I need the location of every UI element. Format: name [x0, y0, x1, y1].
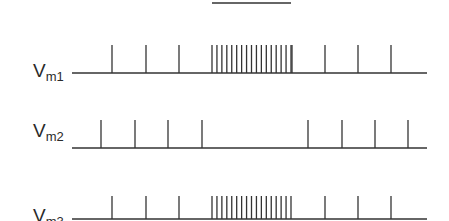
trace-label-subscript: m1 [46, 69, 64, 84]
trace-label-subscript: m2 [46, 129, 64, 144]
trace-label-main: V [33, 60, 46, 81]
trace-label-m3: Vm3 [33, 206, 64, 221]
trace-label-m1: Vm1 [33, 61, 64, 83]
trace-label-main: V [33, 205, 46, 221]
trace-label-main: V [33, 120, 46, 141]
spike-train-diagram: Vm1Vm2Vm3 [0, 0, 449, 221]
diagram-canvas [0, 0, 449, 221]
trace-label-m2: Vm2 [33, 121, 64, 143]
trace-label-subscript: m3 [46, 214, 64, 221]
